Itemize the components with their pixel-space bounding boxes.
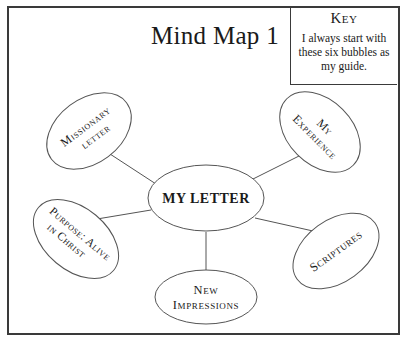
connector-purpose [97,210,151,219]
node-impressions-line2: Impressions [173,298,239,312]
center-node[interactable]: MY LETTER [148,165,264,231]
node-impressions-line1: New [194,283,219,297]
node-purpose[interactable]: Purpose: Alive in Christ [19,184,134,294]
node-new-impressions[interactable]: New Impressions [155,270,257,324]
mind-map: MY LETTER Missionary letter My Experienc… [0,0,405,340]
connector-scriptures [255,218,313,231]
connector-missionary [110,154,156,184]
node-missionary-letter[interactable]: Missionary letter [32,77,146,185]
center-node-label: MY LETTER [162,191,250,206]
node-scriptures[interactable]: Scriptures [279,198,393,305]
node-my-experience[interactable]: My Experience [264,76,376,188]
connector-experience [251,156,299,180]
